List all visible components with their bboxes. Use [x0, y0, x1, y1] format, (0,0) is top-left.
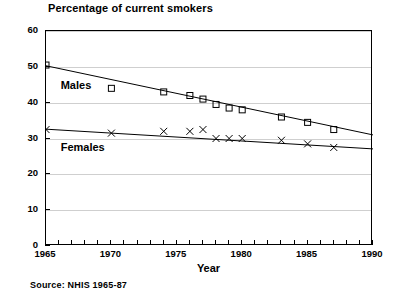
x-tick-mark-1990	[372, 240, 373, 245]
y-tick-label-20: 20	[8, 167, 38, 178]
data-point-marker	[108, 85, 114, 91]
x-tick-mark-1976	[189, 240, 190, 244]
y-tick-mark-60	[45, 30, 50, 31]
y-tick-mark-0	[45, 245, 50, 246]
x-tick-mark-1989	[359, 240, 360, 244]
data-point-marker	[199, 126, 206, 133]
series-label-females: Females	[61, 141, 105, 153]
data-point-marker	[226, 135, 233, 142]
data-point-marker	[186, 128, 193, 135]
y-tick-label-10: 10	[8, 203, 38, 214]
chart-title: Percentage of current smokers	[48, 2, 213, 14]
series-label-males: Males	[61, 79, 92, 91]
x-tick-mark-1973	[150, 240, 151, 244]
data-point-marker	[330, 144, 337, 151]
x-tick-mark-1983	[280, 240, 281, 244]
x-tick-mark-1966	[58, 240, 59, 244]
x-tick-mark-1988	[346, 240, 347, 244]
x-tick-mark-1977	[202, 240, 203, 244]
x-tick-mark-1985	[307, 240, 308, 245]
x-tick-mark-1972	[137, 240, 138, 244]
x-tick-mark-1980	[241, 240, 242, 245]
x-tick-mark-1982	[267, 240, 268, 244]
x-tick-mark-1970	[110, 240, 111, 245]
x-tick-mark-1984	[294, 240, 295, 244]
x-tick-label-1985: 1985	[287, 248, 327, 259]
y-tick-label-60: 60	[8, 24, 38, 35]
x-tick-label-1975: 1975	[156, 248, 196, 259]
x-tick-mark-1965	[45, 240, 46, 245]
y-tick-mark-30	[45, 138, 50, 139]
data-point-marker	[226, 105, 232, 111]
y-tick-label-30: 30	[8, 132, 38, 143]
x-tick-mark-1969	[97, 240, 98, 244]
source-note: Source: NHIS 1965-87	[30, 280, 127, 290]
trend-line-males	[46, 66, 373, 135]
data-point-marker	[304, 140, 311, 147]
x-tick-mark-1979	[228, 240, 229, 244]
x-tick-mark-1986	[320, 240, 321, 244]
x-tick-mark-1968	[84, 240, 85, 244]
x-tick-label-1965: 1965	[25, 248, 65, 259]
plot-area	[45, 30, 372, 245]
x-tick-mark-1987	[333, 240, 334, 244]
x-tick-mark-1971	[123, 240, 124, 244]
x-tick-mark-1978	[215, 240, 216, 244]
chart-figure: Percentage of current smokers 0102030405…	[0, 0, 398, 303]
y-tick-mark-40	[45, 102, 50, 103]
data-point-marker	[160, 128, 167, 135]
x-axis-title: Year	[169, 262, 249, 274]
x-tick-label-1980: 1980	[221, 248, 261, 259]
x-tick-label-1990: 1990	[352, 248, 392, 259]
y-tick-mark-50	[45, 66, 50, 67]
y-tick-mark-20	[45, 173, 50, 174]
data-point-marker	[213, 135, 220, 142]
x-tick-label-1970: 1970	[90, 248, 130, 259]
y-tick-label-40: 40	[8, 96, 38, 107]
y-tick-label-50: 50	[8, 60, 38, 71]
x-tick-mark-1975	[176, 240, 177, 245]
x-tick-mark-1967	[71, 240, 72, 244]
data-series-layer	[46, 31, 373, 246]
data-point-marker	[278, 137, 285, 144]
y-tick-mark-10	[45, 209, 50, 210]
x-tick-mark-1981	[254, 240, 255, 244]
x-tick-mark-1974	[163, 240, 164, 244]
